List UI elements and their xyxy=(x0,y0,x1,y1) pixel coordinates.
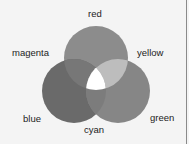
label-red: red xyxy=(88,9,102,19)
label-green: green xyxy=(150,113,174,123)
page-edge-divider xyxy=(186,0,187,144)
label-magenta: magenta xyxy=(12,48,49,58)
label-blue: blue xyxy=(23,114,41,124)
label-yellow: yellow xyxy=(137,48,163,58)
label-cyan: cyan xyxy=(84,125,104,135)
